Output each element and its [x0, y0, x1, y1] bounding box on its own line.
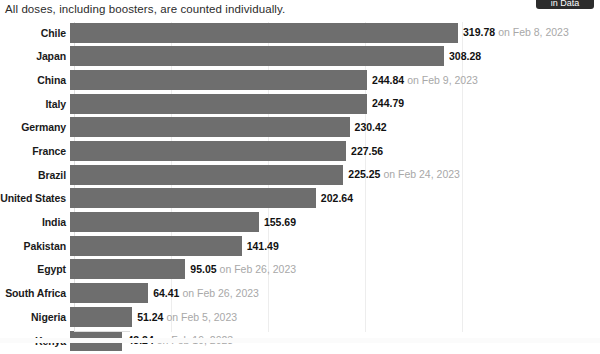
bar-area: 225.25on Feb 24, 2023	[70, 164, 600, 185]
bar-value-date: on Feb 26, 2023	[220, 263, 296, 275]
bar-area: 202.64	[70, 188, 600, 209]
bar-value-group: 155.69	[264, 217, 296, 228]
bar[interactable]	[70, 117, 350, 137]
bar-row[interactable]: China244.84on Feb 9, 2023	[0, 69, 600, 90]
bar[interactable]	[70, 94, 367, 114]
bar-row-label: China	[0, 74, 70, 86]
bar-value-group: 141.49	[247, 241, 279, 252]
bar-row-label: Nigeria	[0, 311, 70, 323]
bar-area: 51.24on Feb 5, 2023	[70, 306, 600, 327]
bar-value-date: on Feb 24, 2023	[383, 168, 459, 180]
bar-value-group: 244.84on Feb 9, 2023	[372, 75, 478, 86]
bar-row-label: France	[0, 145, 70, 157]
bar-row[interactable]: Chile319.78on Feb 8, 2023	[0, 22, 600, 43]
bar-value: 319.78	[463, 26, 495, 38]
plot-area: Chile319.78on Feb 8, 2023Japan308.28Chin…	[0, 22, 600, 338]
bar-value-date: on Feb 9, 2023	[407, 74, 478, 86]
bar-row-label: Egypt	[0, 263, 70, 275]
bar[interactable]	[70, 307, 132, 327]
bar-value: 64.41	[153, 287, 179, 299]
bar-row-label: South Africa	[0, 287, 70, 299]
bar-value: 244.79	[372, 97, 404, 109]
bar-row[interactable]: India155.69	[0, 212, 600, 233]
bar-value-group: 319.78on Feb 8, 2023	[463, 27, 569, 38]
bar-value-group: 230.42	[355, 122, 387, 133]
bar-row[interactable]: France227.56	[0, 140, 600, 161]
bar-row[interactable]: Japan308.28	[0, 46, 600, 67]
bar-row[interactable]: Egypt95.05on Feb 26, 2023	[0, 259, 600, 280]
bar[interactable]	[70, 283, 148, 303]
bar-value-date: on Feb 8, 2023	[498, 26, 569, 38]
bar-value-date: on Feb 26, 2023	[182, 287, 258, 299]
bar[interactable]	[70, 236, 242, 256]
bar[interactable]	[70, 188, 316, 208]
bar-value-group: 202.64	[321, 193, 353, 204]
bar-area: 230.42	[70, 117, 600, 138]
bar-value: 230.42	[355, 121, 387, 133]
bar-value: 244.84	[372, 74, 404, 86]
bar-rows: Chile319.78on Feb 8, 2023Japan308.28Chin…	[0, 22, 600, 354]
bar-value: 95.05	[190, 263, 216, 275]
bar-area: 155.69	[70, 212, 600, 233]
bar-value-group: 51.24on Feb 5, 2023	[137, 312, 237, 323]
bar-area: 244.84on Feb 9, 2023	[70, 69, 600, 90]
bar-row[interactable]: Brazil225.25on Feb 24, 2023	[0, 164, 600, 185]
bar-row[interactable]: Nigeria51.24on Feb 5, 2023	[0, 306, 600, 327]
bar-value-date: on Feb 5, 2023	[166, 311, 237, 323]
bar-value: 202.64	[321, 192, 353, 204]
bar-row-label: Chile	[0, 27, 70, 39]
bar[interactable]	[70, 23, 458, 43]
bar-value-group: 225.25on Feb 24, 2023	[348, 169, 460, 180]
bar-row[interactable]: Germany230.42	[0, 117, 600, 138]
bar-area: 95.05on Feb 26, 2023	[70, 259, 600, 280]
bar-row-label: India	[0, 216, 70, 228]
bar-value-group: 308.28	[449, 51, 481, 62]
bar-value: 141.49	[247, 240, 279, 252]
bar[interactable]	[70, 46, 444, 66]
bar-value: 155.69	[264, 216, 296, 228]
bar-value-group: 64.41on Feb 26, 2023	[153, 288, 259, 299]
bar-row-label: Italy	[0, 98, 70, 110]
bar[interactable]	[70, 70, 367, 90]
bar-value-group: 95.05on Feb 26, 2023	[190, 264, 296, 275]
bar[interactable]	[70, 141, 346, 161]
bar-value: 308.28	[449, 50, 481, 62]
bar-value: 225.25	[348, 168, 380, 180]
bar-row[interactable]: South Africa64.41on Feb 26, 2023	[0, 283, 600, 304]
bar-area: 308.28	[70, 46, 600, 67]
bar-value: 51.24	[137, 311, 163, 323]
bar-row[interactable]: United States202.64	[0, 188, 600, 209]
footer-band	[0, 338, 600, 343]
bar[interactable]	[70, 165, 343, 185]
bar[interactable]	[70, 259, 185, 279]
bar-area: 141.49	[70, 235, 600, 256]
bar-row-label: Germany	[0, 121, 70, 133]
bar-value-group: 227.56	[351, 146, 383, 157]
top-right-action-button[interactable]: in Data	[536, 0, 594, 9]
bar-row-label: United States	[0, 192, 70, 204]
chart-subtitle: All doses, including boosters, are count…	[5, 3, 285, 15]
bar-row-label: Brazil	[0, 169, 70, 181]
bar-row-label: Pakistan	[0, 240, 70, 252]
bar-row[interactable]: Pakistan141.49	[0, 235, 600, 256]
bar-value: 227.56	[351, 145, 383, 157]
bar[interactable]	[70, 212, 259, 232]
bar-area: 244.79	[70, 93, 600, 114]
bar-area: 227.56	[70, 140, 600, 161]
axis-bottom-rule	[74, 331, 130, 332]
bar-area: 319.78on Feb 8, 2023	[70, 22, 600, 43]
bar-row-label: Japan	[0, 50, 70, 62]
bar-area: 64.41on Feb 26, 2023	[70, 283, 600, 304]
bar-row[interactable]: Italy244.79	[0, 93, 600, 114]
bar-value-group: 244.79	[372, 98, 404, 109]
